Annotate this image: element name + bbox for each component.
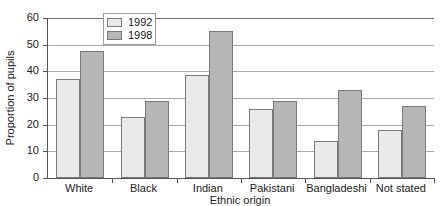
legend-item-1998: 1998 <box>107 29 152 42</box>
x-axis-tick <box>434 178 435 183</box>
gridline <box>48 98 434 99</box>
bar-bangladeshi-1998 <box>338 90 362 178</box>
y-axis-tick <box>43 151 48 152</box>
gridline <box>48 125 434 126</box>
y-axis-tick <box>43 18 48 19</box>
y-axis-tick <box>43 45 48 46</box>
x-axis-category-label: Pakistani <box>240 182 304 194</box>
bar-indian-1992 <box>185 75 209 178</box>
x-axis-category-label: White <box>47 182 111 194</box>
y-axis-tick-label: 30 <box>3 92 39 103</box>
bar-not-stated-1998 <box>402 106 426 178</box>
x-axis-category-label: Indian <box>176 182 240 194</box>
y-axis-tick-label: 0 <box>3 172 39 183</box>
legend-swatch-1998 <box>107 31 122 40</box>
bar-chart: Proportion of pupils Ethnic origin 1992 … <box>0 0 447 206</box>
bar-white-1998 <box>80 51 104 178</box>
bar-white-1992 <box>56 79 80 178</box>
x-axis-category-label: Not stated <box>369 182 433 194</box>
bar-indian-1998 <box>209 31 233 178</box>
y-axis-tick-label: 50 <box>3 39 39 50</box>
y-axis-tick-label: 40 <box>3 65 39 76</box>
bar-pakistani-1992 <box>249 109 273 178</box>
bar-black-1998 <box>145 101 169 178</box>
y-axis-tick-label: 60 <box>3 12 39 23</box>
y-axis-tick <box>43 71 48 72</box>
gridline <box>48 71 434 72</box>
x-axis-category-label: Black <box>111 182 175 194</box>
legend-item-1992: 1992 <box>107 16 152 29</box>
y-axis-tick <box>43 98 48 99</box>
y-axis-tick <box>43 178 48 179</box>
x-axis-title: Ethnic origin <box>47 195 433 206</box>
y-axis-tick-label: 20 <box>3 119 39 130</box>
bar-bangladeshi-1992 <box>314 141 338 178</box>
bar-pakistani-1998 <box>273 101 297 178</box>
legend-label-1992: 1992 <box>128 17 152 28</box>
bar-black-1992 <box>121 117 145 178</box>
y-axis-tick-label: 10 <box>3 145 39 156</box>
x-axis-category-label: Bangladeshi <box>304 182 368 194</box>
legend: 1992 1998 <box>103 13 156 45</box>
bar-not-stated-1992 <box>378 130 402 178</box>
y-axis-tick <box>43 125 48 126</box>
gridline <box>48 151 434 152</box>
legend-label-1998: 1998 <box>128 30 152 41</box>
legend-swatch-1992 <box>107 18 122 27</box>
